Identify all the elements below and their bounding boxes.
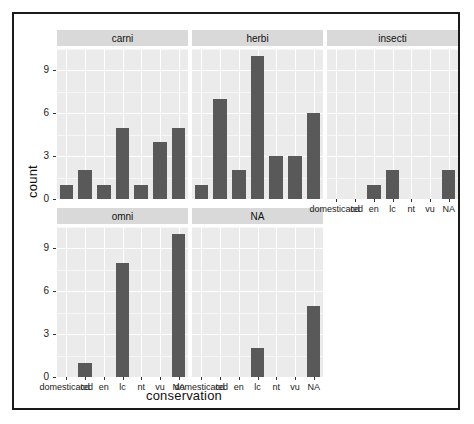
x-axis-tick-label: nt xyxy=(272,382,280,392)
x-axis-tick-label: lc xyxy=(389,204,396,214)
bar xyxy=(307,113,320,199)
bar xyxy=(134,185,147,199)
bar-series xyxy=(192,49,323,199)
bar xyxy=(195,185,208,199)
plot-frame: count conservation carniherbiinsectiomni… xyxy=(12,12,460,410)
x-axis-tick-mark xyxy=(374,199,375,202)
x-axis-tick-marks xyxy=(57,377,188,381)
y-axis-tick-mark xyxy=(53,291,56,292)
bar xyxy=(78,170,91,199)
x-axis-tick-mark xyxy=(314,377,315,380)
x-axis-tick-label: NA xyxy=(442,204,455,214)
x-axis-tick-label: NA xyxy=(307,382,320,392)
bar xyxy=(269,156,282,199)
bar-series xyxy=(57,227,188,377)
x-axis-tick-label: en xyxy=(369,204,379,214)
x-axis-tick-label: nt xyxy=(137,382,145,392)
plot-panel xyxy=(57,227,188,377)
x-axis-tick-labels: domesticatedcdenlcntvuNA xyxy=(192,382,323,394)
y-axis-tick-mark xyxy=(53,334,56,335)
x-axis-tick-label: vu xyxy=(425,204,435,214)
y-axis-tick-label: 6 xyxy=(33,107,49,118)
bar xyxy=(232,170,245,199)
y-axis-tick-label: 9 xyxy=(33,242,49,253)
facet-panel-insecti: insecti xyxy=(327,30,458,199)
x-axis-tick-mark xyxy=(85,377,86,380)
facet-panel-carni: carni xyxy=(57,30,188,199)
x-axis-tick-label: cd xyxy=(80,382,90,392)
x-axis-tick-mark xyxy=(220,377,221,380)
bar xyxy=(116,263,129,377)
bar xyxy=(386,170,399,199)
y-axis-tick-label: 6 xyxy=(33,285,49,296)
x-axis-tick-mark xyxy=(160,377,161,380)
plot-panel xyxy=(192,227,323,377)
x-axis-tick-label: en xyxy=(99,382,109,392)
x-axis-tick-label: vu xyxy=(290,382,300,392)
facet-strip-label: omni xyxy=(57,208,188,224)
x-axis-tick-mark xyxy=(276,377,277,380)
x-axis-tick-mark xyxy=(104,377,105,380)
x-axis-tick-label: vu xyxy=(155,382,165,392)
y-axis-tick-label: 0 xyxy=(33,193,49,204)
plot-panel xyxy=(57,49,188,199)
y-axis-tick-mark xyxy=(53,248,56,249)
x-axis-tick-mark xyxy=(123,377,124,380)
y-axis-tick-label: 9 xyxy=(33,64,49,75)
x-axis-tick-label: lc xyxy=(119,382,126,392)
bar xyxy=(172,128,185,199)
plot-panel xyxy=(192,49,323,199)
y-axis-tick-label: 3 xyxy=(33,150,49,161)
y-axis-tick-mark xyxy=(53,377,56,378)
bar-series xyxy=(327,49,458,199)
facet-panel-omni: omni xyxy=(57,208,188,377)
x-axis-tick-mark xyxy=(66,377,67,380)
y-axis-tick-mark xyxy=(53,156,56,157)
x-axis-tick-mark xyxy=(141,377,142,380)
x-axis-tick-mark xyxy=(258,377,259,380)
bar-series xyxy=(192,227,323,377)
x-axis-tick-label: en xyxy=(234,382,244,392)
x-axis-tick-label: cd xyxy=(215,382,225,392)
bar xyxy=(442,170,455,199)
bar xyxy=(307,306,320,377)
x-axis-tick-label: cd xyxy=(350,204,360,214)
x-axis-tick-mark xyxy=(201,377,202,380)
bar xyxy=(172,234,185,377)
bar-series xyxy=(57,49,188,199)
y-axis-tick-label: 3 xyxy=(33,328,49,339)
bar xyxy=(213,99,226,199)
x-axis-tick-label: lc xyxy=(254,382,261,392)
bar xyxy=(78,363,91,377)
x-axis-tick-mark xyxy=(430,199,431,202)
bar xyxy=(367,185,380,199)
x-axis-tick-marks xyxy=(327,199,458,203)
x-axis-tick-marks xyxy=(192,377,323,381)
y-axis-tick-label: 0 xyxy=(33,371,49,382)
bar xyxy=(288,156,301,199)
x-axis-tick-mark xyxy=(179,377,180,380)
plot-panel xyxy=(327,49,458,199)
bar xyxy=(97,185,110,199)
facet-strip-label: NA xyxy=(192,208,323,224)
x-axis-tick-mark xyxy=(295,377,296,380)
plot-area: count conservation carniherbiinsectiomni… xyxy=(14,14,458,408)
x-axis-tick-labels: domesticatedcdenlcntvuNA xyxy=(57,382,188,394)
y-axis-tick-mark xyxy=(53,199,56,200)
bar xyxy=(153,142,166,199)
x-axis-tick-mark xyxy=(239,377,240,380)
x-axis-tick-mark xyxy=(411,199,412,202)
bar xyxy=(60,185,73,199)
x-axis-tick-label: nt xyxy=(407,204,415,214)
x-axis-tick-mark xyxy=(336,199,337,202)
x-axis-tick-mark xyxy=(355,199,356,202)
facet-strip-label: insecti xyxy=(327,30,458,46)
bar xyxy=(251,56,264,199)
y-axis-tick-mark xyxy=(53,113,56,114)
y-axis-tick-mark xyxy=(53,70,56,71)
x-axis-tick-mark xyxy=(449,199,450,202)
facet-strip-label: carni xyxy=(57,30,188,46)
facet-panel-na: NA xyxy=(192,208,323,377)
x-axis-tick-mark xyxy=(393,199,394,202)
bar xyxy=(116,128,129,199)
